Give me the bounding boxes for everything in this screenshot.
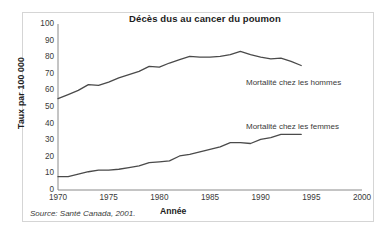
y-tick-label: 60 bbox=[28, 85, 54, 94]
x-axis-label: Année bbox=[160, 206, 186, 216]
series-label-hommes: Mortalité chez les hommes bbox=[246, 78, 341, 87]
y-axis-label: Taux par 100 000 bbox=[16, 41, 26, 145]
series-line-hommes bbox=[58, 51, 301, 98]
chart-title: Décès dus au cancer du poumon bbox=[60, 13, 350, 24]
x-tick-label: 1970 bbox=[38, 193, 78, 202]
chart-series-group bbox=[58, 51, 301, 176]
y-tick-label: 20 bbox=[28, 152, 54, 161]
x-tick-label: 1995 bbox=[291, 193, 331, 202]
x-tick-label: 1985 bbox=[190, 193, 230, 202]
y-tick-label: 30 bbox=[28, 135, 54, 144]
y-tick-label: 70 bbox=[28, 69, 54, 78]
series-label-femmes: Mortalité chez les femmes bbox=[246, 122, 339, 131]
x-tick-label: 1990 bbox=[241, 193, 281, 202]
y-tick-label: 40 bbox=[28, 119, 54, 128]
y-tick-label: 100 bbox=[28, 19, 54, 28]
source-note: Source: Santé Canada, 2001. bbox=[30, 209, 135, 218]
chart-plot-area bbox=[0, 0, 388, 240]
chart-axes bbox=[58, 24, 362, 190]
x-tick-label: 1980 bbox=[139, 193, 179, 202]
series-line-femmes bbox=[58, 134, 301, 176]
y-tick-label: 50 bbox=[28, 102, 54, 111]
y-tick-label: 80 bbox=[28, 52, 54, 61]
y-tick-label: 90 bbox=[28, 36, 54, 45]
x-tick-label: 1975 bbox=[89, 193, 129, 202]
y-tick-label: 10 bbox=[28, 168, 54, 177]
x-tick-label: 2000 bbox=[342, 193, 382, 202]
